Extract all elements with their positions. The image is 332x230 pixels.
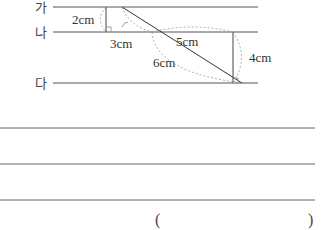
dashed-arc-4cm — [233, 32, 242, 83]
line-label-na: 나 — [35, 25, 47, 40]
label-5cm: 5cm — [176, 34, 198, 49]
line-label-ga: 가 — [35, 0, 47, 15]
right-angle-mark-upper — [106, 27, 111, 32]
line-label-da: 다 — [35, 76, 47, 91]
parallel-lines-diagram: 가 나 다 2cm 3cm 5cm 6cm 4cm — [0, 0, 332, 230]
dashed-arc-upper-diagonal — [122, 7, 152, 32]
answer-close-paren: ) — [308, 211, 313, 229]
label-6cm: 6cm — [153, 55, 175, 70]
dashed-arc-2cm — [101, 7, 107, 32]
label-4cm: 4cm — [249, 50, 271, 65]
answer-open-paren: ( — [155, 211, 160, 229]
label-2cm: 2cm — [72, 12, 94, 27]
dashed-arc-5cm — [152, 27, 233, 32]
pointer-arc-3cm — [122, 22, 128, 27]
label-3cm: 3cm — [110, 36, 132, 51]
answer-blank[interactable] — [165, 212, 305, 230]
